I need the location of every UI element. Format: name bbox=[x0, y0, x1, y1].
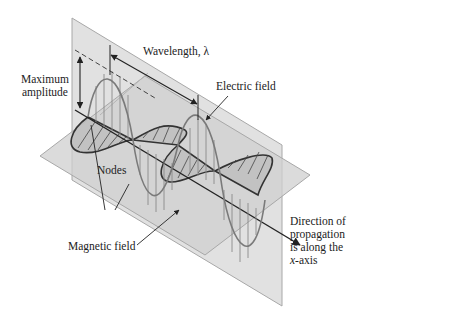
wavelength-label: Wavelength, λ bbox=[143, 45, 209, 58]
direction-label: Direction of propagation is along the x-… bbox=[290, 215, 346, 267]
direction-line4: x-axis bbox=[290, 254, 346, 267]
em-wave-diagram bbox=[0, 0, 469, 336]
nodes-label: Nodes bbox=[97, 164, 126, 177]
max-amplitude-line1: Maximum bbox=[21, 73, 69, 86]
magnetic-field-label: Magnetic field bbox=[68, 240, 135, 253]
axis-suffix: -axis bbox=[295, 254, 317, 266]
max-amplitude-line2: amplitude bbox=[21, 86, 69, 99]
max-amplitude-label: Maximum amplitude bbox=[21, 73, 69, 99]
electric-field-label: Electric field bbox=[216, 80, 276, 93]
direction-line3: is along the bbox=[290, 241, 346, 254]
direction-line2: propagation bbox=[290, 228, 346, 241]
direction-line1: Direction of bbox=[290, 215, 346, 228]
